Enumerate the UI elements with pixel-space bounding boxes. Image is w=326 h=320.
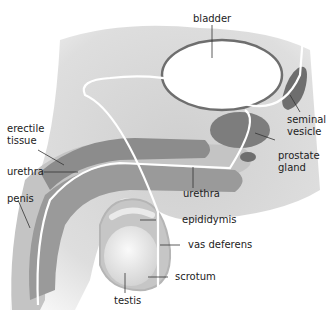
label-vas-deferens: vas deferens	[188, 239, 252, 250]
bladder-shape	[162, 40, 282, 110]
label-epididymis: epididymis	[182, 214, 236, 225]
label-seminal-vesicle-1: seminal	[287, 114, 326, 125]
label-penis: penis	[7, 193, 34, 204]
label-erectile-tissue-2: tissue	[7, 135, 37, 146]
label-scrotum: scrotum	[175, 271, 216, 282]
label-urethra-left: urethra	[7, 166, 44, 177]
label-erectile-tissue-1: erectile	[7, 123, 44, 134]
prostate-shape	[210, 112, 270, 148]
label-prostate-1: prostate	[278, 150, 320, 161]
label-seminal-vesicle-2: vesicle	[287, 126, 322, 137]
bulbourethral-gland	[240, 152, 256, 162]
label-bladder: bladder	[193, 13, 231, 24]
label-prostate-2: gland	[278, 162, 306, 173]
label-urethra-right: urethra	[183, 188, 220, 199]
label-testis: testis	[114, 295, 141, 306]
